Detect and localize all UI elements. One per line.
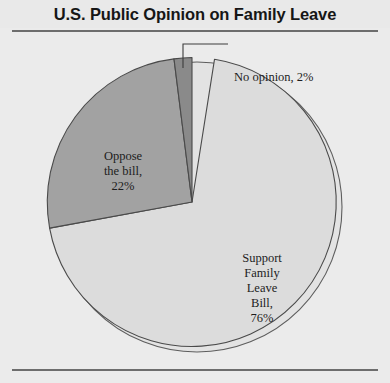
pie-chart: Oppose the bill, 22% Support Family Leav… [0, 32, 390, 368]
pie-chart-svg [0, 32, 390, 368]
chart-title-bar: U.S. Public Opinion on Family Leave [0, 0, 390, 28]
page-title: U.S. Public Opinion on Family Leave [54, 5, 337, 24]
bottom-divider-rule [12, 369, 378, 371]
pie-slice-oppose [47, 59, 192, 228]
chart-screenshot: U.S. Public Opinion on Family Leave Oppo… [0, 0, 390, 383]
